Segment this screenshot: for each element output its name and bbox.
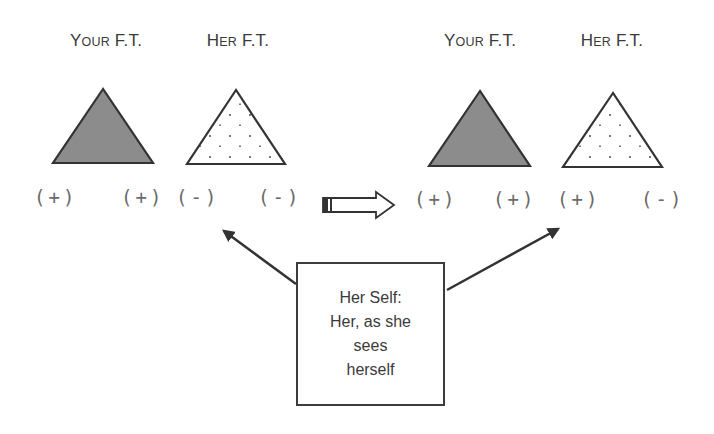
left-sign-1: (+) <box>34 186 77 208</box>
left-sign-4: (-) <box>258 186 301 208</box>
left-sign-3: (-) <box>176 186 219 208</box>
right-sign-4: (-) <box>641 188 684 210</box>
her-self-callout-box: Her Self: Her, as she sees herself <box>296 262 445 406</box>
right-sign-1: (+) <box>414 188 457 210</box>
right-your-ft-triangle <box>429 91 530 166</box>
left-her-ft-triangle <box>187 90 285 164</box>
callout-line-1: Her Self: <box>339 286 401 310</box>
callout-line-3: sees <box>354 334 388 358</box>
block-right-arrow-icon <box>323 192 394 218</box>
left-sign-2: (+) <box>121 186 164 208</box>
right-sign-3: (+) <box>557 188 600 210</box>
callout-line-4: herself <box>346 358 394 382</box>
callout-line-2: Her, as she <box>330 310 411 334</box>
left-your-ft-triangle <box>53 89 153 163</box>
right-sign-2: (+) <box>493 188 536 210</box>
callout-pointer-left <box>224 231 296 284</box>
callout-pointer-right <box>447 229 558 290</box>
right-her-ft-triangle <box>563 93 662 167</box>
